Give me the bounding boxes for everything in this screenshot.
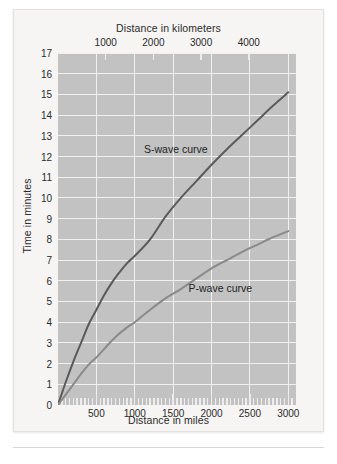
y-tick-label: 9: [46, 213, 52, 224]
curve-annotation-s-wave: S-wave curve: [144, 143, 208, 155]
y-axis-title: Time in minutes: [21, 161, 33, 271]
y-tick-label: 1: [46, 379, 52, 390]
y-tick-label: 10: [41, 192, 52, 203]
chart-figure: Distance in kilometers 1000200030004000 …: [14, 10, 323, 431]
y-tick-label: 6: [46, 275, 52, 286]
figure-card: Distance in kilometers 1000200030004000 …: [13, 9, 324, 432]
y-tick-label: 4: [46, 317, 52, 328]
bottom-axis-title: Distance in miles: [14, 414, 323, 426]
curve-annotation-p-wave: P-wave curve: [189, 282, 253, 294]
top-tick-label: 3000: [190, 37, 212, 48]
top-axis-tick-labels: 1000200030004000: [58, 37, 296, 51]
y-tick-label: 3: [46, 337, 52, 348]
top-axis-title: Distance in kilometers: [14, 22, 323, 34]
y-tick-label: 14: [41, 110, 52, 121]
plot-area: S-wave curveP-wave curve: [58, 53, 296, 405]
y-tick-label: 2: [46, 358, 52, 369]
y-tick-label: 0: [46, 400, 52, 411]
top-tick-label: 4000: [238, 37, 260, 48]
y-tick-label: 8: [46, 234, 52, 245]
y-tick-label: 11: [42, 172, 52, 183]
y-tick-label: 15: [41, 89, 52, 100]
y-tick-label: 13: [41, 130, 52, 141]
page-divider: [13, 447, 324, 448]
y-tick-label: 12: [41, 151, 52, 162]
y-tick-label: 5: [46, 296, 52, 307]
top-tick-label: 1000: [95, 37, 117, 48]
y-tick-label: 17: [41, 48, 52, 59]
y-tick-label: 7: [46, 255, 52, 266]
top-tick-label: 2000: [142, 37, 164, 48]
y-tick-label: 16: [41, 68, 52, 79]
data-curves: [58, 53, 296, 405]
